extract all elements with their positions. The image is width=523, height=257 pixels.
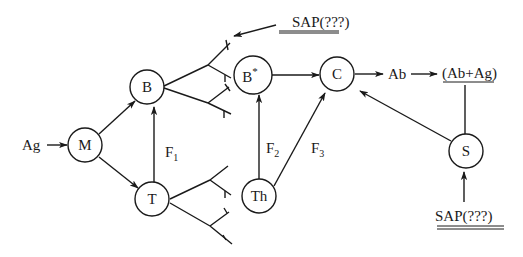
node-b: B (130, 70, 164, 104)
node-s: S (449, 134, 483, 168)
edge-s-c (360, 91, 451, 141)
edge-m-t (99, 157, 138, 188)
t-receptor-branches (170, 166, 232, 244)
node-th: Th (242, 179, 276, 213)
svg-text:Th: Th (251, 188, 268, 204)
complex-label: (Ab+Ag) (442, 65, 497, 82)
antibody-label: Ab (388, 66, 406, 82)
node-t: T (135, 182, 169, 216)
svg-text:M: M (78, 137, 91, 153)
edge-sap-top (234, 25, 276, 36)
svg-text:(Ab+Ag): (Ab+Ag) (442, 65, 497, 82)
node-c: C (320, 57, 354, 91)
sap-top-label: SAP(???) (279, 14, 349, 33)
svg-text:T: T (147, 191, 156, 207)
node-b-star: B* (234, 56, 272, 94)
f2-label: F2 (266, 140, 279, 159)
svg-text:SAP(???): SAP(???) (292, 14, 349, 31)
edge-m-b (99, 101, 135, 134)
immune-diagram: Ag M B T F1 SAP(???) (0, 0, 523, 257)
f1-label: F1 (165, 144, 178, 163)
node-m: M (68, 128, 102, 162)
svg-text:B: B (142, 79, 152, 95)
sap-bottom-label: SAP(???) (435, 208, 504, 229)
antigen-label: Ag (22, 137, 41, 153)
b-receptor-branches (164, 40, 231, 118)
svg-text:S: S (462, 143, 470, 159)
f3-label: F3 (311, 140, 324, 159)
svg-text:C: C (332, 66, 342, 82)
svg-text:SAP(???): SAP(???) (435, 208, 492, 225)
